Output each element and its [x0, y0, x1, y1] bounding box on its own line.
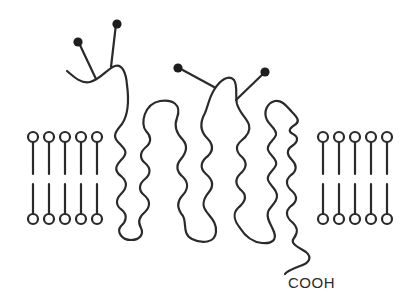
glycan-bead-icon [112, 19, 121, 28]
glycan-stalk-4 [236, 72, 265, 100]
lipid-top-row [318, 132, 392, 174]
lipid-bilayer-right [318, 132, 392, 224]
lipid-top-row [28, 132, 102, 174]
glycan-bead-icon [73, 37, 82, 46]
lipid-bottom-row [28, 184, 102, 224]
glycan-bead-icon [260, 67, 269, 76]
glycan-stalk-2 [111, 24, 116, 67]
protein-chain [67, 66, 309, 274]
glycan-bead-icon [173, 63, 182, 72]
lipid-bilayer-left [28, 132, 102, 224]
lipid-bottom-row [318, 184, 392, 224]
glycan-stalk-3 [179, 68, 214, 87]
glycan-stalk-1 [79, 43, 96, 79]
membrane-protein-diagram [0, 0, 417, 306]
cooh-terminus-label: COOH [288, 274, 335, 291]
